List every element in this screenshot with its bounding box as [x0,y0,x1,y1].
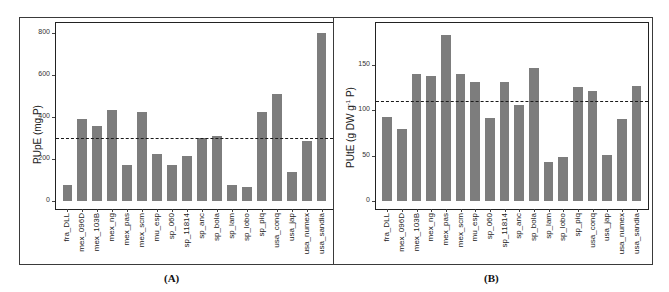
x-tick-mark [292,209,293,212]
x-tick-label: mex_096D [77,213,86,273]
panel-a-plot-area: fra_DLLmex_096Dmex_103Bmex_ngmex_pasmex_… [55,22,334,210]
x-tick-label: mu_esp [470,213,479,273]
x-tick-mark [157,209,158,212]
x-tick-label: sp_060 [167,213,176,273]
x-tick-label: sp_11814 [500,213,509,273]
x-tick-label: usa_conq [588,213,597,273]
bar-sp_piq [257,112,267,201]
x-tick-mark [112,209,113,212]
x-tick-label: sp_lobo [242,213,251,273]
y-tick-label: 0 [348,196,370,203]
x-tick-mark [446,209,447,212]
bar-mex_pas [441,35,451,201]
x-tick-mark [247,209,248,212]
x-tick-mark [67,209,68,212]
bar-sp_anc [514,105,524,201]
bar-sp_lam [227,185,237,201]
x-tick-label: usa_conq [272,213,281,273]
x-tick-label: usa_sandia [317,213,326,273]
x-tick-mark [387,209,388,212]
x-tick-label: sp_bola [529,213,538,273]
panel-a-caption: (A) [164,272,179,284]
y-tick-label: 800 [28,28,50,35]
x-tick-label: sp_piq [573,213,582,273]
bar-mex_scm [456,74,466,201]
bar-usa_conq [272,94,282,201]
y-tick-mark [372,201,375,202]
x-tick-label: mex_ng [107,213,116,273]
x-tick-mark [578,209,579,212]
bar-sp_bola [212,136,222,201]
y-tick-mark [372,156,375,157]
x-tick-label: fra_DLL [62,213,71,273]
y-tick-label: 600 [28,70,50,77]
x-tick-mark [262,209,263,212]
x-tick-mark [402,209,403,212]
bar-sp_piq [573,87,583,201]
bar-mex_scm [137,112,147,201]
x-tick-mark [82,209,83,212]
x-tick-mark [622,209,623,212]
bars-container [376,23,648,201]
x-tick-mark [232,209,233,212]
y-tick-label: 150 [348,60,370,67]
x-tick-label: mu_esp [152,213,161,273]
x-tick-label: mex_096D [397,213,406,273]
y-tick-label: 400 [28,112,50,119]
x-tick-label: fra_DLL [382,213,391,273]
bar-mex_ng [107,110,117,201]
panel-b-caption: (B) [484,272,499,284]
panel-b-plot-area: fra_DLLmex_096Dmex_103Bmex_ngmex_pasmex_… [375,22,649,210]
x-tick-mark [417,209,418,212]
bar-mex_096D [77,119,87,201]
bar-usa_numex [302,141,312,201]
x-tick-mark [534,209,535,212]
bars-container [56,23,333,201]
bar-sp_bola [529,68,539,201]
x-tick-label: usa_numex [617,213,626,273]
x-tick-label: sp_lobo [558,213,567,273]
y-tick-mark [52,75,55,76]
bar-usa_numex [617,119,627,201]
bar-mex_096D [397,129,407,201]
x-tick-label: mex_ng [426,213,435,273]
x-tick-mark [490,209,491,212]
y-tick-label: 100 [348,105,370,112]
bar-usa_conq [588,91,598,201]
x-tick-label: sp_lam [544,213,553,273]
x-tick-label: sp_lam [227,213,236,273]
x-tick-mark [475,209,476,212]
y-tick-label: 0 [28,196,50,203]
x-tick-label: mex_scm [456,213,465,273]
x-tick-mark [322,209,323,212]
y-tick-mark [372,65,375,66]
reference-dashed-line [56,138,333,139]
y-tick-mark [52,33,55,34]
x-tick-label: usa_jap [287,213,296,273]
x-tick-mark [187,209,188,212]
x-tick-mark [217,209,218,212]
bar-usa_jap [602,155,612,201]
panel-b-y-label-post: P) [345,87,356,100]
x-tick-label: sp_060 [485,213,494,273]
bar-sp_lam [544,162,554,201]
x-tick-mark [461,209,462,212]
bar-usa_sandia [632,86,642,201]
y-tick-label: 50 [348,151,370,158]
x-tick-mark [637,209,638,212]
x-tick-mark [593,209,594,212]
x-tick-mark [505,209,506,212]
x-tick-mark [172,209,173,212]
bar-fra_DLL [63,185,73,201]
bar-mex_ng [426,76,436,201]
x-tick-mark [549,209,550,212]
x-tick-label: usa_jap [602,213,611,273]
panel-b-frame: PUtE (g DW g-1 P) fra_DLLmex_096Dmex_103… [333,17,653,265]
y-tick-mark [52,159,55,160]
bar-fra_DLL [382,117,392,201]
y-tick-mark [372,110,375,111]
panel-a-frame: PUpE (mg P) fra_DLLmex_096Dmex_103Bmex_n… [19,17,334,265]
reference-dashed-line [376,101,648,102]
x-tick-mark [127,209,128,212]
y-tick-mark [52,201,55,202]
